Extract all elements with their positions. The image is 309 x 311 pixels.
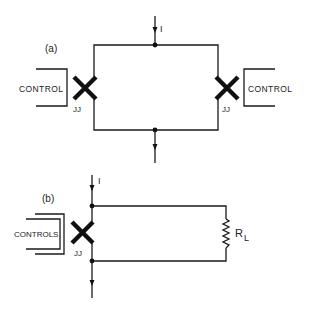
panel-a-label: (a) <box>45 43 57 54</box>
loop-bottom-wire <box>94 98 218 130</box>
right-control-label: CONTROL <box>248 84 292 94</box>
josephson-junction-icon <box>72 222 93 243</box>
left-josephson-junction-icon <box>74 77 96 99</box>
top-node-b <box>90 204 95 209</box>
loop-top-wire <box>94 45 218 77</box>
circuit-diagram: (a) I JJ JJ CONTROL CONTROL <box>0 0 309 311</box>
top-node <box>153 43 158 48</box>
panel-a: (a) I JJ JJ CONTROL CONTROL <box>19 16 292 163</box>
resistor-label: R <box>235 227 243 239</box>
current-label-b: I <box>98 176 101 186</box>
jj-label-b: JJ <box>74 249 82 258</box>
load-resistor-icon <box>223 219 229 248</box>
load-bottom-wire <box>92 248 226 261</box>
right-jj-label: JJ <box>222 105 230 114</box>
resistor-subscript: L <box>244 233 249 243</box>
load-top-wire <box>92 206 226 219</box>
right-josephson-junction-icon <box>216 77 238 99</box>
current-label: I <box>160 24 163 34</box>
panel-b-label: (b) <box>42 193 54 204</box>
output-arrow-icon <box>153 144 158 150</box>
controls-label: CONTROLS <box>14 230 58 239</box>
left-control-label: CONTROL <box>19 84 63 94</box>
current-arrow-icon <box>153 27 158 33</box>
current-arrow-icon-b <box>90 185 95 191</box>
output-arrow-icon-b <box>90 280 95 286</box>
left-jj-label: JJ <box>73 105 81 114</box>
panel-b: (b) I JJ R L CONTROLS <box>14 175 249 298</box>
